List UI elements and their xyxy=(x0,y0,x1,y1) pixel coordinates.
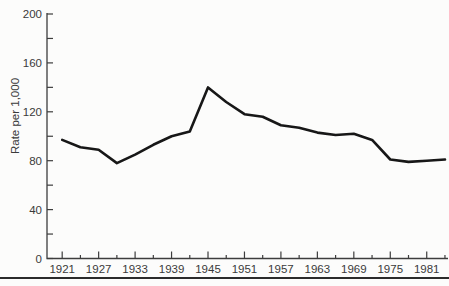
x-tick-label: 1981 xyxy=(414,263,440,275)
x-tick-label: 1975 xyxy=(377,263,403,275)
x-tick-label: 1927 xyxy=(86,263,112,275)
figure-bottom-rule xyxy=(0,277,449,279)
x-tick-label: 1939 xyxy=(159,263,185,275)
data-line xyxy=(62,87,445,163)
y-tick-label: 160 xyxy=(23,57,42,69)
figure: Rate per 1,000 0408012016020019211927193… xyxy=(0,0,449,286)
x-tick-label: 1969 xyxy=(341,263,367,275)
plot-svg: 0408012016020019211927193319391945195119… xyxy=(0,0,449,286)
y-tick-label: 0 xyxy=(36,253,42,265)
page: { "chart_data": { "type": "line", "title… xyxy=(0,0,449,286)
x-tick-label: 1933 xyxy=(122,263,148,275)
x-tick-label: 1951 xyxy=(232,263,258,275)
y-tick-label: 80 xyxy=(29,155,42,167)
axes xyxy=(47,13,448,259)
x-tick-label: 1945 xyxy=(195,263,221,275)
y-tick-label: 120 xyxy=(23,106,42,118)
y-tick-label: 200 xyxy=(23,8,42,20)
y-tick-label: 40 xyxy=(29,204,42,216)
x-tick-label: 1957 xyxy=(268,263,294,275)
x-tick-label: 1963 xyxy=(305,263,331,275)
x-tick-label: 1921 xyxy=(49,263,75,275)
